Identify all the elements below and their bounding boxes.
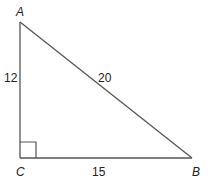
vertex-label-a: A xyxy=(15,5,24,19)
side-label-ab: 20 xyxy=(98,71,112,85)
right-angle-marker xyxy=(20,142,36,158)
side-label-cb: 15 xyxy=(92,165,106,179)
side-label-ac: 12 xyxy=(4,71,18,85)
vertex-label-b: B xyxy=(192,165,200,179)
side-ab xyxy=(20,22,192,158)
vertex-label-c: C xyxy=(16,165,25,179)
triangle-edges xyxy=(20,22,192,158)
triangle-diagram: A C B 12 20 15 xyxy=(0,0,214,190)
